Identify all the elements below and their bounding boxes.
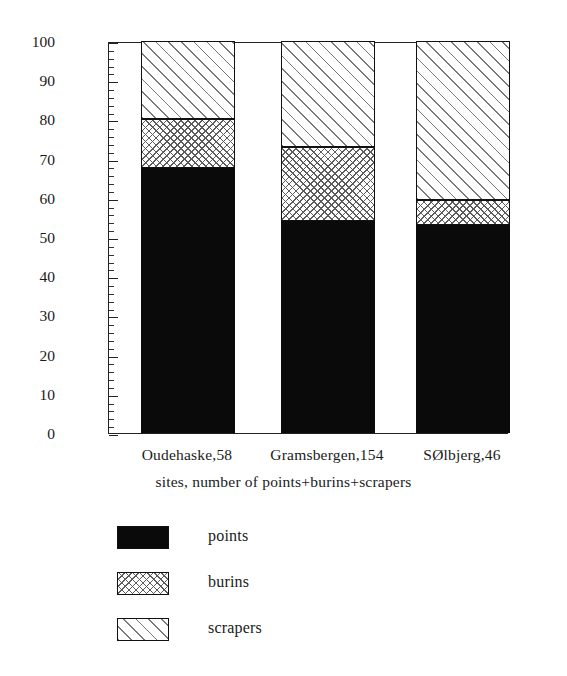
bar-1 — [141, 41, 235, 433]
y-axis-major-tick — [109, 317, 118, 318]
y-axis-minor-tick — [109, 98, 114, 99]
y-axis-minor-tick — [109, 286, 114, 287]
bar-segment-scrapers — [141, 41, 235, 119]
y-axis-minor-tick — [109, 90, 114, 91]
y-axis-major-tick — [109, 357, 118, 358]
y-axis-major-tick — [109, 121, 118, 122]
y-axis-minor-tick — [109, 255, 114, 256]
y-axis-minor-tick — [109, 215, 114, 216]
y-axis-tick-label: 10 — [11, 387, 55, 403]
y-axis-minor-tick — [109, 388, 114, 389]
y-axis-major-tick — [109, 278, 118, 279]
y-axis-tick-label: 100 — [11, 34, 55, 50]
y-axis-tick-label: 90 — [11, 73, 55, 89]
y-axis-minor-tick — [109, 247, 114, 248]
bar-2 — [281, 41, 375, 433]
x-axis-title: sites, number of points+burins+scrapers — [0, 473, 567, 491]
y-axis-minor-tick — [109, 349, 114, 350]
y-axis-minor-tick — [109, 404, 114, 405]
y-axis-major-tick — [109, 396, 118, 397]
y-axis-minor-tick — [109, 310, 114, 311]
bar-3 — [416, 41, 510, 433]
y-axis-minor-tick — [109, 192, 114, 193]
y-axis-minor-tick — [109, 114, 114, 115]
legend-label-scrapers: scrapers — [208, 619, 262, 637]
y-axis-tick-label: 0 — [11, 426, 55, 442]
y-axis-major-tick — [109, 435, 118, 436]
bar-segment-burins — [141, 119, 235, 168]
y-axis-tick-label: 30 — [11, 308, 55, 324]
y-axis-minor-tick — [109, 223, 114, 224]
y-axis-tick-label: 80 — [11, 112, 55, 128]
y-axis-minor-tick — [109, 411, 114, 412]
legend-label-burins: burins — [208, 573, 249, 591]
y-axis-major-tick — [109, 43, 118, 44]
y-axis-minor-tick — [109, 341, 114, 342]
y-axis-minor-tick — [109, 51, 114, 52]
plot-area — [108, 42, 508, 434]
y-axis-minor-tick — [109, 380, 114, 381]
y-axis-minor-tick — [109, 153, 114, 154]
x-axis-label-3: SØlbjerg,46 — [382, 446, 542, 464]
legend-label-points: points — [208, 527, 248, 545]
y-axis-minor-tick — [109, 294, 114, 295]
y-axis-minor-tick — [109, 372, 114, 373]
bar-segment-burins — [416, 200, 510, 225]
y-axis-minor-tick — [109, 176, 114, 177]
bar-segment-points — [416, 225, 510, 433]
y-axis-minor-tick — [109, 419, 114, 420]
chart-figure: percentage 0102030405060708090100 Oudeha… — [0, 0, 567, 676]
legend-swatch-scrapers — [117, 618, 169, 641]
bar-segment-points — [281, 221, 375, 433]
y-axis-minor-tick — [109, 427, 114, 428]
y-axis-major-tick — [109, 82, 118, 83]
y-axis-tick-label: 40 — [11, 269, 55, 285]
y-axis-minor-tick — [109, 325, 114, 326]
bar-segment-points — [141, 168, 235, 433]
y-axis-minor-tick — [109, 333, 114, 334]
y-axis-major-tick — [109, 200, 118, 201]
y-axis-minor-tick — [109, 74, 114, 75]
y-axis-minor-tick — [109, 67, 114, 68]
y-axis-minor-tick — [109, 231, 114, 232]
bar-segment-burins — [281, 147, 375, 221]
y-axis-tick-label: 50 — [11, 230, 55, 246]
y-axis-tick-label: 60 — [11, 191, 55, 207]
y-axis-tick-label: 70 — [11, 152, 55, 168]
y-axis-minor-tick — [109, 137, 114, 138]
y-axis-minor-tick — [109, 364, 114, 365]
x-axis-label-1: Oudehaske,58 — [107, 446, 267, 464]
legend-swatch-burins — [117, 572, 169, 595]
y-axis-minor-tick — [109, 129, 114, 130]
y-axis-tick-label: 20 — [11, 348, 55, 364]
legend-swatch-points — [117, 526, 169, 549]
y-axis-major-tick — [109, 161, 118, 162]
y-axis-minor-tick — [109, 270, 114, 271]
y-axis-minor-tick — [109, 302, 114, 303]
y-axis-minor-tick — [109, 145, 114, 146]
bar-segment-scrapers — [281, 41, 375, 147]
y-axis-minor-tick — [109, 208, 114, 209]
y-axis-major-tick — [109, 239, 118, 240]
y-axis-minor-tick — [109, 168, 114, 169]
bar-segment-scrapers — [416, 41, 510, 200]
y-axis-minor-tick — [109, 184, 114, 185]
y-axis-minor-tick — [109, 263, 114, 264]
y-axis-minor-tick — [109, 59, 114, 60]
y-axis-minor-tick — [109, 106, 114, 107]
